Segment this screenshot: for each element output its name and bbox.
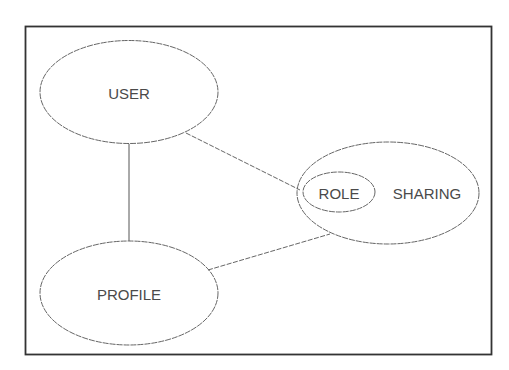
- node-role: ROLE: [303, 172, 375, 212]
- sharing-label: SHARING: [393, 185, 461, 202]
- node-profile: PROFILE: [40, 241, 218, 345]
- edge-user-role: [186, 133, 300, 190]
- edge-profile-sharing: [208, 234, 330, 270]
- diagram-canvas: USER PROFILE SHARING ROLE: [0, 0, 509, 370]
- profile-label: PROFILE: [97, 286, 161, 303]
- node-user: USER: [40, 41, 218, 144]
- role-label: ROLE: [319, 185, 360, 202]
- user-label: USER: [108, 85, 150, 102]
